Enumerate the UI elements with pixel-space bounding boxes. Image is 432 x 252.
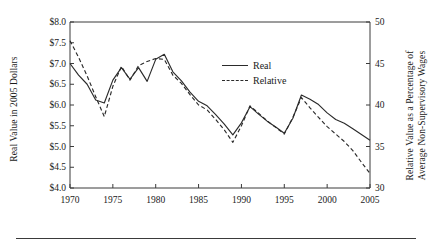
left-tick-label: $4.0 bbox=[49, 183, 66, 193]
right-tick-label: 35 bbox=[375, 142, 385, 152]
x-tick-label: 1995 bbox=[275, 195, 294, 205]
right-axis-title-line1: Relative Value as a Percentage of bbox=[405, 51, 415, 181]
left-tick-label: $5.5 bbox=[49, 121, 66, 131]
footer-divider bbox=[16, 238, 416, 239]
x-tick-label: 2005 bbox=[361, 195, 380, 205]
right-tick-label: 40 bbox=[375, 100, 385, 110]
left-tick-label: $5.0 bbox=[49, 142, 66, 152]
right-axis-title: Relative Value as a Percentage of Averag… bbox=[405, 28, 428, 204]
chart-legend: Real Relative bbox=[222, 58, 326, 88]
plot-area bbox=[70, 22, 370, 188]
left-axis-tick-labels: $8.0$7.5$7.0$6.5$6.0$5.5$5.0$4.5$4.0 bbox=[26, 0, 66, 252]
legend-item-real: Real bbox=[222, 58, 326, 73]
x-tick-label: 2000 bbox=[318, 195, 337, 205]
x-tick-label: 1990 bbox=[232, 195, 251, 205]
bottom-axis-ticks bbox=[70, 184, 370, 188]
legend-label-real: Real bbox=[253, 60, 271, 71]
right-axis-title-line2: Average Non-Supervisory Wages bbox=[416, 51, 426, 180]
left-tick-label: $7.5 bbox=[49, 38, 66, 48]
right-tick-label: 45 bbox=[375, 59, 385, 69]
x-tick-label: 1985 bbox=[189, 195, 208, 205]
left-axis-title: Real Value in 2005 Dollars bbox=[9, 29, 19, 189]
legend-label-relative: Relative bbox=[253, 75, 286, 86]
plot-svg bbox=[70, 22, 370, 188]
right-axis-tick-labels: 5045403530 bbox=[375, 0, 405, 252]
right-tick-label: 50 bbox=[375, 17, 385, 27]
left-tick-label: $6.0 bbox=[49, 100, 66, 110]
x-axis-tick-labels: 19701975198019851990199520002005 bbox=[0, 195, 432, 211]
x-tick-label: 1980 bbox=[146, 195, 165, 205]
right-tick-label: 30 bbox=[375, 183, 385, 193]
left-tick-label: $6.5 bbox=[49, 79, 66, 89]
legend-item-relative: Relative bbox=[222, 73, 326, 88]
x-tick-label: 1970 bbox=[61, 195, 80, 205]
left-tick-label: $7.0 bbox=[49, 59, 66, 69]
x-tick-label: 1975 bbox=[103, 195, 122, 205]
left-tick-label: $8.0 bbox=[49, 17, 66, 27]
left-tick-label: $4.5 bbox=[49, 162, 66, 172]
chart-figure: Real Value in 2005 Dollars Relative Valu… bbox=[0, 0, 432, 252]
legend-key-solid-icon bbox=[222, 65, 248, 66]
legend-key-dashed-icon bbox=[222, 80, 248, 81]
right-axis-ticks bbox=[366, 22, 370, 188]
